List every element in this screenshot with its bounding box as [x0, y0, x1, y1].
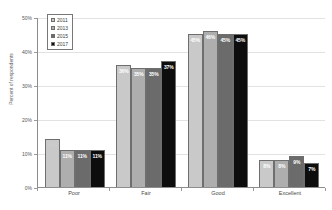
x-axis-labels: PoorFairGoodExcellent — [38, 190, 326, 196]
bar-chart: Percent of respondents 50%40%30%20%10%0%… — [0, 0, 332, 210]
legend-item-label: 2015 — [57, 33, 68, 39]
bar-value-label: 7% — [305, 166, 318, 172]
bar-groups: 14%11%11%11%36%35%35%37%45%46%45%45%8%8%… — [39, 18, 325, 187]
bar[interactable]: 7% — [304, 163, 319, 187]
y-axis-tick-label: 20% — [0, 117, 32, 123]
legend-item-label: 2013 — [57, 25, 68, 31]
bar[interactable]: 35% — [146, 68, 161, 187]
x-axis-label: Fair — [110, 190, 182, 196]
bar-value-label: 35% — [147, 71, 160, 77]
bar[interactable]: 9% — [289, 156, 304, 187]
legend-swatch-icon — [51, 42, 55, 46]
legend-item-label: 2017 — [57, 41, 68, 47]
legend-item[interactable]: 2011 — [51, 17, 68, 23]
legend-item[interactable]: 2013 — [51, 25, 68, 31]
legend-item-label: 2011 — [57, 17, 68, 23]
y-axis-ticks: 50%40%30%20%10%0% — [0, 18, 34, 188]
bar[interactable]: 11% — [60, 150, 75, 187]
y-axis-tick-label: 0% — [0, 185, 32, 191]
bar-cluster: 8%8%9%7% — [259, 18, 319, 187]
x-axis-label: Poor — [38, 190, 110, 196]
y-axis-tick-label: 10% — [0, 151, 32, 157]
bar[interactable]: 45% — [233, 34, 248, 187]
y-axis-tick-label: 30% — [0, 83, 32, 89]
bar-value-label: 46% — [204, 34, 217, 40]
bar[interactable]: 45% — [218, 34, 233, 187]
bar[interactable]: 8% — [259, 160, 274, 187]
bar[interactable]: 8% — [274, 160, 289, 187]
bar[interactable]: 11% — [75, 150, 90, 187]
x-axis-label: Good — [182, 190, 254, 196]
bar-value-label: 14% — [46, 142, 59, 148]
legend-item[interactable]: 2015 — [51, 33, 68, 39]
bar-value-label: 37% — [162, 64, 175, 70]
y-axis-tick-label: 40% — [0, 49, 32, 55]
bar-value-label: 8% — [260, 163, 273, 169]
legend-swatch-icon — [51, 18, 55, 22]
plot-area: 14%11%11%11%36%35%35%37%45%46%45%45%8%8%… — [37, 18, 325, 188]
bar-value-label: 9% — [290, 159, 303, 165]
bar-group: 8%8%9%7% — [254, 18, 326, 187]
bar-cluster: 45%46%45%45% — [188, 18, 248, 187]
x-axis-label: Excellent — [254, 190, 326, 196]
bar-cluster: 36%35%35%37% — [116, 18, 176, 187]
bar[interactable]: 36% — [116, 65, 131, 187]
y-axis-tick-label: 50% — [0, 15, 32, 21]
bar[interactable]: 45% — [188, 34, 203, 187]
bar-value-label: 45% — [219, 37, 232, 43]
bar-value-label: 35% — [132, 71, 145, 77]
bar[interactable]: 14% — [45, 139, 60, 187]
legend-swatch-icon — [51, 26, 55, 30]
bar-value-label: 8% — [275, 163, 288, 169]
legend-item[interactable]: 2017 — [51, 41, 68, 47]
bar-value-label: 11% — [61, 153, 74, 159]
bar-value-label: 36% — [117, 68, 130, 74]
bar-value-label: 11% — [91, 153, 104, 159]
chart-legend[interactable]: 2011201320152017 — [47, 14, 73, 50]
bar-value-label: 45% — [234, 37, 247, 43]
bar[interactable]: 37% — [161, 61, 176, 187]
bar-value-label: 45% — [189, 37, 202, 43]
bar-group: 45%46%45%45% — [182, 18, 254, 187]
bar[interactable]: 35% — [131, 68, 146, 187]
bar-value-label: 11% — [76, 153, 89, 159]
bar[interactable]: 11% — [90, 150, 105, 187]
bar[interactable]: 46% — [203, 31, 218, 187]
legend-swatch-icon — [51, 34, 55, 38]
bar-group: 36%35%35%37% — [111, 18, 183, 187]
